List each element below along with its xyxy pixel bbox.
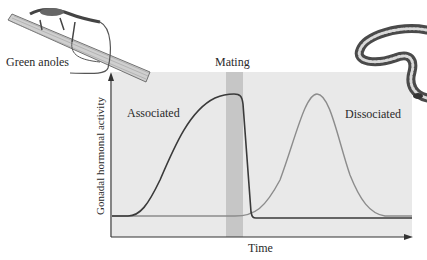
dissociated-label: Dissociated bbox=[345, 107, 401, 122]
green-anoles-label: Green anoles bbox=[6, 55, 69, 70]
associated-label: Associated bbox=[127, 106, 180, 121]
mating-label: Mating bbox=[215, 55, 250, 70]
x-axis-label: Time bbox=[248, 241, 273, 256]
plot-panel bbox=[112, 72, 412, 237]
green-anoles-illustration-icon bbox=[8, 8, 150, 82]
diagram-canvas bbox=[0, 0, 427, 260]
y-axis-label: Gonadal hormonal activity bbox=[94, 86, 106, 226]
